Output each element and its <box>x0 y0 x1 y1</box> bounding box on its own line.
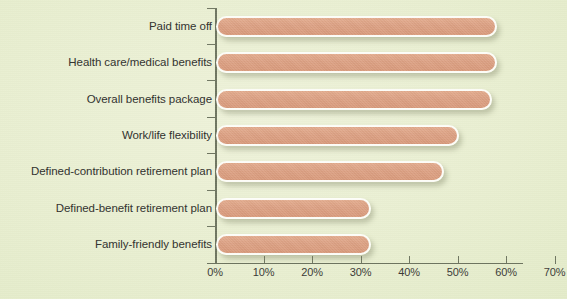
category-label: Work/life flexibility <box>0 129 212 141</box>
x-axis-tick <box>215 256 216 264</box>
x-axis-tick <box>312 256 313 264</box>
category-label: Defined-benefit retirement plan <box>0 202 212 214</box>
x-axis-tick <box>506 256 507 264</box>
x-axis-tick <box>555 256 556 264</box>
x-axis-tick-label: 70% <box>535 266 567 278</box>
bar <box>216 89 492 110</box>
category-label: Defined-contribution retirement plan <box>0 165 212 177</box>
bar <box>216 234 371 255</box>
x-axis-tick <box>458 256 459 264</box>
category-label: Health care/medical benefits <box>0 56 212 68</box>
bar <box>216 16 497 37</box>
x-axis-tick-label: 60% <box>486 266 526 278</box>
x-axis-tick-label: 30% <box>341 266 381 278</box>
y-axis-tick <box>207 44 216 45</box>
y-axis-tick <box>207 153 216 154</box>
x-axis-line <box>215 263 523 264</box>
plot-area: 0%10%20%30%40%50%60%70% Paid time offHea… <box>0 0 567 299</box>
x-axis-tick-label: 50% <box>438 266 478 278</box>
x-axis-tick-label: 10% <box>244 266 284 278</box>
x-axis-tick-label: 20% <box>292 266 332 278</box>
x-axis-tick <box>264 256 265 264</box>
y-axis-tick <box>207 226 216 227</box>
category-label: Paid time off <box>0 20 212 32</box>
bar <box>216 161 444 182</box>
y-axis-tick <box>207 80 216 81</box>
category-label: Family-friendly benefits <box>0 238 212 250</box>
y-axis-tick <box>207 117 216 118</box>
category-label: Overall benefits package <box>0 93 212 105</box>
bar <box>216 198 371 219</box>
bar-chart: 0%10%20%30%40%50%60%70% Paid time offHea… <box>0 0 567 299</box>
y-axis-tick <box>207 190 216 191</box>
x-axis-tick-label: 40% <box>389 266 429 278</box>
x-axis-tick <box>361 256 362 264</box>
x-axis-tick-label: 0% <box>195 266 235 278</box>
bar <box>216 52 497 73</box>
x-axis-tick <box>409 256 410 264</box>
y-axis-tick <box>207 8 216 9</box>
bar <box>216 125 459 146</box>
